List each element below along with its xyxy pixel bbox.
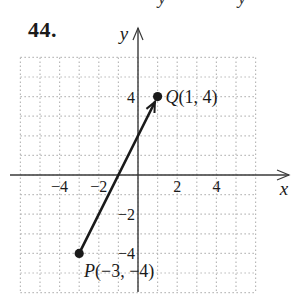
point-coordinates: (−3, −4) [95, 261, 154, 282]
y-axis-label: y [118, 23, 129, 44]
x-tick-label: 2 [173, 178, 181, 195]
y-tick-label: −4 [118, 245, 135, 262]
axes: xy [10, 23, 289, 292]
point-q-label: Q(1, 4) [166, 87, 218, 108]
x-axis-label: x [279, 178, 289, 199]
point-q-marker [153, 92, 162, 101]
point-coordinates: (1, 4) [179, 87, 218, 108]
point-p-marker [75, 249, 84, 258]
x-tick-label: −4 [51, 178, 68, 195]
coordinate-plane: xy −4−2244−2−4 P(−3, −4)Q(1, 4) [0, 0, 307, 307]
x-tick-label: −2 [90, 178, 107, 195]
x-tick-label: 4 [212, 178, 220, 195]
point-p-label: P(−3, −4) [83, 261, 154, 282]
y-tick-label: 4 [127, 89, 135, 106]
point-name: P [83, 261, 95, 281]
point-name: Q [166, 87, 179, 107]
y-tick-label: −2 [118, 206, 135, 223]
